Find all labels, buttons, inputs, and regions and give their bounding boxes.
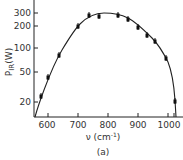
ir-power-chart: 300 200 100 50 20 600 700 800 900 1000 P… <box>0 0 183 160</box>
data-point <box>88 12 90 18</box>
data-point <box>174 98 176 104</box>
y-tick-50: 50 <box>20 67 32 77</box>
x-tick-800: 800 <box>99 120 116 130</box>
fit-curve <box>35 13 176 117</box>
data-point <box>77 23 79 29</box>
data-point <box>127 16 129 22</box>
y-tick-100: 100 <box>14 43 31 53</box>
x-tick-700: 700 <box>69 120 86 130</box>
data-point <box>117 12 119 18</box>
x-tick-900: 900 <box>129 120 146 130</box>
data-points <box>40 12 176 104</box>
panel-label: (a) <box>97 147 110 157</box>
x-ticks <box>48 113 174 117</box>
x-tick-600: 600 <box>38 120 55 130</box>
x-tick-1000: 1000 <box>158 120 181 130</box>
data-point <box>47 74 49 80</box>
y-tick-200: 200 <box>14 21 31 31</box>
y-tick-20: 20 <box>20 97 32 107</box>
x-axis-label: ν (cm-1) <box>86 131 121 142</box>
y-ticks <box>34 13 38 102</box>
data-point <box>154 38 156 44</box>
data-point <box>40 93 42 99</box>
y-tick-300: 300 <box>14 8 31 18</box>
